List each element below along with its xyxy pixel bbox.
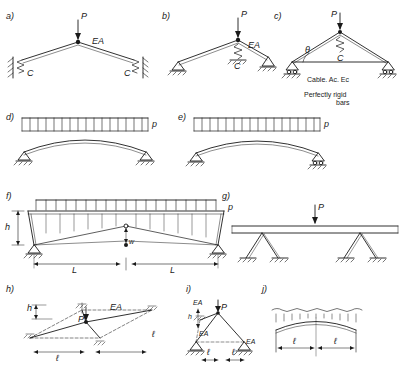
panel-j-geometry (272, 309, 362, 357)
panel-j-dim-l-left: ℓ (293, 337, 296, 346)
panel-c-angle-label: θ (305, 46, 310, 55)
panel-h-label: h) (6, 285, 14, 294)
panel-h-dim-h: h (27, 304, 32, 313)
panel-j-label: j) (262, 285, 267, 294)
panel-g-geometry (232, 205, 398, 262)
panel-e-label: e) (178, 113, 186, 122)
panel-a-member-label: EA (92, 37, 104, 46)
panel-i-member-label-2: EA (199, 330, 208, 337)
panel-h-dim-l-left: ℓ (56, 354, 59, 363)
panel-f-dim-w: w (129, 238, 134, 245)
panel-b-support-label: C (234, 62, 241, 71)
panel-c-support-label: C (337, 54, 344, 63)
panel-e-geometry (186, 118, 326, 169)
panel-a-label: a) (6, 12, 14, 21)
panel-i-dim-l-right: ℓ (232, 348, 235, 357)
panel-h-load-label: P (78, 315, 84, 324)
panel-f-label: f) (6, 192, 12, 201)
panel-h-geometry (24, 303, 157, 354)
panel-e-load-label: p (324, 120, 329, 129)
panel-f-dim-l-left: L (72, 266, 77, 275)
panel-c-load-label: P (331, 10, 337, 19)
panel-c-bars-note: bars (336, 99, 350, 106)
panel-a-support-label-right: C (124, 69, 131, 78)
panel-g-load-label: P (318, 203, 324, 212)
panel-i-member-label-3: EA (246, 338, 255, 345)
panel-c-label: c) (274, 12, 282, 21)
panel-d-load-label: p (152, 120, 157, 129)
panel-j-dim-l-right: ℓ (334, 337, 337, 346)
figure-sheet: a) P EA C C b) P EA C c) P θ C Cable. Ac… (0, 0, 406, 376)
panel-d-label: d) (6, 113, 14, 122)
panel-a-support-label-left: C (27, 69, 34, 78)
panel-f-dim-l-right: L (170, 266, 175, 275)
figure-drawing (0, 0, 406, 376)
panel-b-label: b) (162, 12, 170, 21)
panel-b-member-label: EA (248, 41, 260, 50)
panel-i-member-label-1: EA (193, 299, 202, 306)
panel-a-load-label: P (81, 12, 87, 21)
panel-i-label: i) (186, 285, 191, 294)
panel-i-load-label: P (221, 303, 227, 312)
panel-i-dim-l-left: ℓ (207, 348, 210, 357)
panel-c-geometry (282, 13, 396, 78)
panel-f-dim-h: h (5, 223, 10, 232)
panel-c-cable-note: Cable. Ac. Ec (307, 76, 349, 83)
panel-d-geometry (14, 118, 154, 165)
panel-f-load-label: p (228, 203, 233, 212)
panel-i-geometry (186, 300, 252, 362)
panel-g-label: g) (222, 192, 230, 201)
panel-h-member-label: EA (110, 303, 122, 312)
panel-b-load-label: P (241, 10, 247, 19)
panel-h-dim-l-right: ℓ (152, 330, 155, 339)
panel-f-geometry (12, 200, 226, 270)
panel-c-rigid-note: Perfectly rigid (304, 91, 346, 98)
panel-i-dim-h: h (188, 313, 192, 320)
